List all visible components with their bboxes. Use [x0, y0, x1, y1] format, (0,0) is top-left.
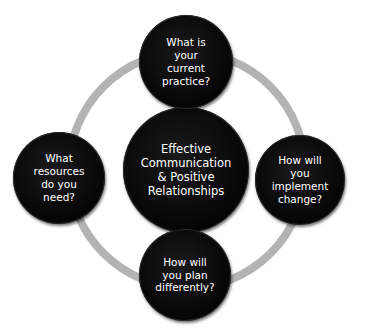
node-label: What resources do you need? — [34, 152, 85, 203]
center-node: Effective Communication & Positive Relat… — [123, 107, 249, 233]
node-bottom-plan-differently: How will you plan differently? — [139, 229, 231, 321]
node-label: What is your current practice? — [162, 36, 210, 87]
node-label: How will you plan differently? — [155, 256, 214, 294]
node-label: How will you implement change? — [272, 154, 329, 205]
node-left-resources: What resources do you need? — [13, 132, 105, 224]
center-node-label: Effective Communication & Positive Relat… — [141, 142, 232, 198]
node-right-implement-change: How will you implement change? — [255, 135, 345, 225]
node-top-current-practice: What is your current practice? — [139, 15, 233, 109]
